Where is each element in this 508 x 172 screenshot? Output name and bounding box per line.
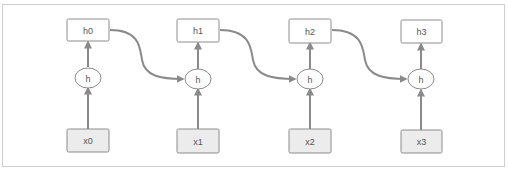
step-0: h0 h x0 xyxy=(67,19,109,152)
recurrent-arrow-0-1 xyxy=(110,30,183,79)
cell-label-1: h xyxy=(195,75,200,85)
input-label-x3: x3 xyxy=(417,137,427,147)
step-2: h2 h x2 xyxy=(289,19,331,153)
input-label-x0: x0 xyxy=(83,136,93,146)
input-label-x2: x2 xyxy=(305,137,315,147)
cell-label-0: h xyxy=(85,74,90,84)
step-3: h3 h x3 xyxy=(401,20,442,153)
output-label-h1: h1 xyxy=(193,26,203,36)
cell-label-3: h xyxy=(418,75,423,85)
output-label-h2: h2 xyxy=(305,27,315,37)
rnn-diagram: h0 h x0 h1 h x1 h2 h x2 h3 h x3 xyxy=(0,0,508,172)
step-1: h1 h x1 xyxy=(177,19,219,153)
input-label-x1: x1 xyxy=(193,137,203,147)
cell-label-2: h xyxy=(307,75,312,85)
output-label-h3: h3 xyxy=(416,27,426,37)
output-label-h0: h0 xyxy=(83,26,93,36)
recurrent-arrow-2-3 xyxy=(332,30,406,79)
recurrent-arrow-1-2 xyxy=(220,30,295,79)
